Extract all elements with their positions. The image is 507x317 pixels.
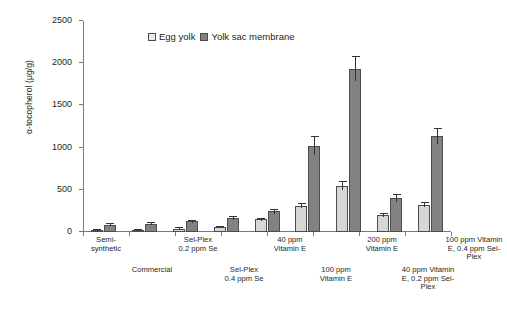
x-label-row2-3: 40 ppm Vitamin E, 0.2 ppm Sel- Plex xyxy=(393,266,463,292)
plot-area: 05001000150020002500 xyxy=(83,21,451,232)
error-cap-top xyxy=(298,203,306,204)
error-cap-top xyxy=(270,209,278,210)
error-bar xyxy=(179,227,180,229)
y-axis-tick-label: 1500 xyxy=(52,100,72,109)
error-cap-top xyxy=(421,202,429,203)
error-cap-top xyxy=(339,181,347,182)
bar-light xyxy=(295,206,307,232)
error-bar xyxy=(424,202,425,206)
bar-dark xyxy=(227,218,239,232)
error-cap-top xyxy=(93,229,101,230)
y-axis-title: α-tocopherol (μg/g) xyxy=(24,22,34,172)
x-label-row2-1: Sel-Plex 0.4 ppm Se xyxy=(209,266,279,283)
y-axis-tick-label: 0 xyxy=(67,227,72,236)
bar-dark xyxy=(308,146,320,233)
error-bar xyxy=(314,136,315,155)
y-axis-tick-label: 500 xyxy=(57,184,72,193)
error-bar xyxy=(138,229,139,231)
error-cap-top xyxy=(134,229,142,230)
bar-dark xyxy=(390,198,402,232)
error-cap-top xyxy=(216,226,224,227)
error-cap-top xyxy=(311,136,319,137)
error-bar xyxy=(383,213,384,217)
x-label-row1-4: 100 ppm Vitamin E, 0.4 ppm Sel- Plex xyxy=(439,236,507,262)
bar-light xyxy=(377,215,389,232)
x-axis-labels: Semi- syntheticSel-Plex 0.2 ppm Se40 ppm… xyxy=(83,236,451,306)
error-cap-top xyxy=(188,220,196,221)
bar-dark xyxy=(349,69,361,232)
y-axis-tick: 2500 xyxy=(79,20,83,21)
error-bar xyxy=(192,220,193,223)
error-bar xyxy=(110,223,111,226)
error-bar xyxy=(396,194,397,202)
error-bar xyxy=(261,218,262,222)
error-cap-top xyxy=(352,56,360,57)
x-label-row1-0: Semi- synthetic xyxy=(71,236,141,253)
y-axis-tick: 2000 xyxy=(79,62,83,63)
error-cap-top xyxy=(393,194,401,195)
x-label-row1-3: 200 ppm Vitamin E xyxy=(347,236,417,253)
error-bar xyxy=(342,181,343,189)
bar-dark xyxy=(268,211,280,232)
y-axis-tick-label: 2000 xyxy=(52,58,72,67)
error-bar xyxy=(301,203,302,208)
y-axis-tick: 1000 xyxy=(79,147,83,148)
error-bar xyxy=(233,216,234,220)
error-cap-top xyxy=(434,128,442,129)
error-cap-top xyxy=(380,213,388,214)
bar-light xyxy=(255,219,267,232)
error-cap-top xyxy=(106,223,114,224)
error-bar xyxy=(274,209,275,214)
x-label-row2-0: Commercial xyxy=(117,266,187,275)
bar-dark xyxy=(431,136,443,232)
error-bar xyxy=(355,56,356,81)
x-label-row1-1: Sel-Plex 0.2 ppm Se xyxy=(163,236,233,253)
y-axis-tick-label: 1000 xyxy=(52,142,72,151)
error-bar xyxy=(437,128,438,144)
x-label-row2-2: 100 ppm Vitamin E xyxy=(301,266,371,283)
error-bar xyxy=(220,226,221,229)
error-cap-top xyxy=(229,216,237,217)
bar-light xyxy=(336,186,348,232)
bar-light xyxy=(418,205,430,232)
error-bar xyxy=(97,229,98,231)
y-axis-tick: 1500 xyxy=(79,104,83,105)
error-cap-top xyxy=(257,218,265,219)
y-axis-tick-label: 2500 xyxy=(52,16,72,25)
x-label-row1-2: 40 ppm Vitamin E xyxy=(255,236,325,253)
y-axis-line xyxy=(83,21,84,232)
y-axis-tick: 500 xyxy=(79,189,83,190)
error-bar xyxy=(151,222,152,225)
error-cap-top xyxy=(147,222,155,223)
error-cap-top xyxy=(175,227,183,228)
